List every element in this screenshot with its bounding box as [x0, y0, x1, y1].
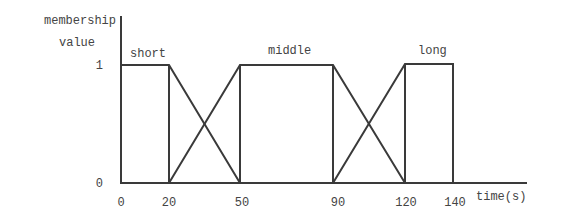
- x-tick-90: 90: [331, 196, 345, 210]
- y-tick-0: 0: [96, 177, 103, 191]
- x-tick-0: 0: [117, 196, 124, 210]
- y-axis-label-line1: membership: [44, 14, 116, 28]
- x-tick-50: 50: [235, 196, 249, 210]
- x-tick-20: 20: [162, 196, 176, 210]
- membership-function-chart: membership value 1 0 0 20 50 90 120 140 …: [0, 0, 562, 221]
- label-middle: middle: [268, 44, 311, 58]
- y-tick-1: 1: [96, 59, 103, 73]
- x-axis-label: time(s): [476, 190, 526, 204]
- x-tick-120: 120: [395, 196, 417, 210]
- y-axis-label-line2: value: [59, 36, 95, 50]
- label-short: short: [130, 47, 166, 61]
- label-long: long: [418, 44, 447, 58]
- x-tick-140: 140: [444, 196, 466, 210]
